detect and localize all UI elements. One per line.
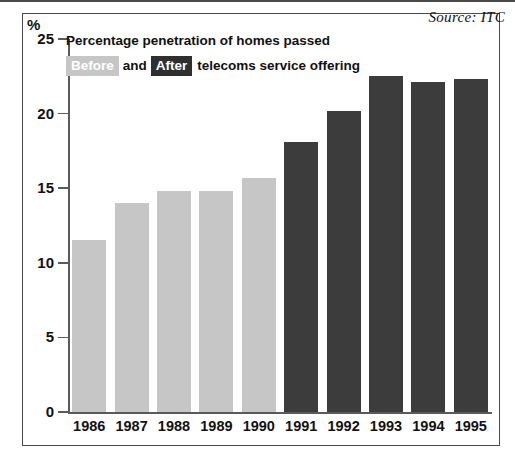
legend-tail-text: telecoms service offering (192, 55, 360, 77)
bar-1995 (454, 79, 488, 412)
bar-1991 (284, 142, 318, 412)
x-axis-label-1986: 1986 (68, 418, 110, 434)
bar-1993 (369, 76, 403, 412)
legend-swatch-before: Before (66, 56, 119, 76)
legend-line-2: BeforeandAftertelecoms service offering (66, 55, 396, 77)
legend-line-1: Percentage penetration of homes passed (66, 30, 396, 52)
x-axis-line (68, 412, 492, 414)
bar-1992 (327, 111, 361, 412)
y-axis-label-20: 20 (12, 105, 54, 122)
y-axis-label-10: 10 (12, 254, 54, 271)
x-axis-label-1988: 1988 (153, 418, 195, 434)
x-axis-label-1991: 1991 (280, 418, 322, 434)
x-axis-label-1989: 1989 (195, 418, 237, 434)
bar-1987 (115, 203, 149, 412)
x-axis-labels: 1986198719881989199019911992199319941995 (68, 418, 492, 442)
x-axis-label-1995: 1995 (450, 418, 492, 434)
y-axis-label-5: 5 (12, 328, 54, 345)
bar-1988 (157, 191, 191, 412)
legend-and-text: and (119, 55, 151, 77)
y-axis-label-0: 0 (12, 403, 54, 420)
x-axis-label-1990: 1990 (238, 418, 280, 434)
bar-1989 (199, 191, 233, 412)
bar-series-group (68, 39, 492, 412)
y-axis-label-15: 15 (12, 179, 54, 196)
x-axis-label-1987: 1987 (110, 418, 152, 434)
x-axis-label-1992: 1992 (322, 418, 364, 434)
bar-1986 (72, 240, 106, 412)
chart-legend: Percentage penetration of homes passed B… (66, 30, 396, 77)
x-axis-label-1993: 1993 (365, 418, 407, 434)
bar-1994 (411, 82, 445, 412)
legend-swatch-after: After (151, 56, 193, 76)
x-axis-label-1994: 1994 (407, 418, 449, 434)
bar-1990 (242, 178, 276, 412)
y-axis-label-25: 25 (12, 30, 54, 47)
